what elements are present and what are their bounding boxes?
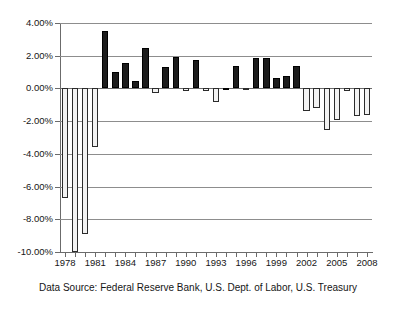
bar	[82, 88, 88, 234]
y-axis-label: 4.00%	[26, 18, 53, 28]
bar	[324, 88, 330, 130]
bar	[132, 81, 138, 88]
y-axis-label: -6.00%	[23, 182, 53, 192]
y-axis-label: -2.00%	[23, 116, 53, 126]
x-axis-label: 1987	[145, 258, 166, 268]
bar	[152, 88, 158, 93]
y-axis-label: -10.00%	[18, 247, 53, 257]
bar	[102, 31, 108, 88]
bar	[364, 88, 370, 115]
bar-chart-figure: 4.00%2.00%0.00%-2.00%-4.00%-6.00%-8.00%-…	[0, 0, 393, 324]
bar	[223, 88, 229, 90]
chart-caption: Data Source: Federal Reserve Bank, U.S. …	[28, 281, 368, 295]
bar	[243, 88, 249, 90]
bar	[283, 76, 289, 88]
x-axis-label: 1993	[205, 258, 226, 268]
bar	[92, 88, 98, 147]
bar	[183, 88, 189, 90]
bar	[233, 66, 239, 88]
bar	[193, 60, 199, 89]
bar	[173, 57, 179, 89]
x-axis-label: 2005	[326, 258, 347, 268]
x-axis-label: 1984	[115, 258, 136, 268]
bar	[62, 88, 68, 198]
bar	[273, 78, 279, 89]
bar	[112, 72, 118, 88]
bar	[213, 88, 219, 102]
bar	[334, 88, 340, 119]
x-axis-label: 2002	[296, 258, 317, 268]
bar	[303, 88, 309, 110]
bar	[203, 88, 209, 90]
y-axis-label: -8.00%	[23, 215, 53, 225]
y-axis-label: 2.00%	[26, 51, 53, 61]
x-axis-label: 1999	[266, 258, 287, 268]
y-axis-label: -4.00%	[23, 149, 53, 159]
bar	[263, 58, 269, 88]
x-axis-label: 2008	[356, 258, 377, 268]
bar	[293, 66, 299, 88]
plot-area: 4.00%2.00%0.00%-2.00%-4.00%-6.00%-8.00%-…	[60, 23, 372, 252]
bar	[253, 58, 259, 88]
bar	[313, 88, 319, 108]
bar	[162, 67, 168, 88]
x-axis-label: 1990	[175, 258, 196, 268]
y-axis-label: 0.00%	[26, 84, 53, 94]
bar	[72, 88, 78, 252]
x-axis-label: 1996	[236, 258, 257, 268]
bar	[344, 88, 350, 90]
bar	[122, 63, 128, 88]
x-axis-label: 1981	[85, 258, 106, 268]
bars-group	[60, 23, 372, 252]
x-axis-label: 1978	[54, 258, 75, 268]
bar	[142, 48, 148, 89]
bar	[354, 88, 360, 116]
